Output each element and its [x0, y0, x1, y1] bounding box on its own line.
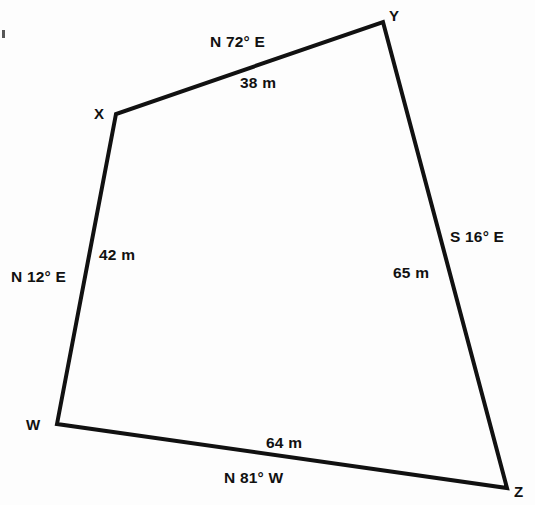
bearing-label-wx: N 12° E — [11, 269, 66, 285]
bearing-label-yz: S 16° E — [450, 229, 504, 245]
distance-label-xy: 38 m — [240, 75, 276, 91]
survey-diagram: W X Y Z N 72° E 38 m S 16° E 65 m N 81° … — [0, 0, 535, 505]
vertex-label-y: Y — [389, 8, 399, 23]
bearing-label-wz: N 81° W — [224, 470, 283, 486]
distance-label-yz: 65 m — [393, 265, 429, 281]
vertex-label-z: Z — [514, 484, 523, 499]
bearing-label-xy: N 72° E — [210, 34, 265, 50]
distance-label-wx: 42 m — [99, 247, 135, 263]
vertex-label-x: X — [94, 106, 104, 121]
distance-label-wz: 64 m — [266, 435, 302, 451]
scan-artifact-speck — [2, 30, 5, 38]
vertex-label-w: W — [26, 417, 40, 432]
